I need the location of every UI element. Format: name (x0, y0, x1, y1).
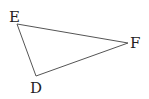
vertex-label-d: D (30, 79, 42, 97)
triangle-diagram: E F D (0, 0, 149, 99)
vertex-label-f: F (130, 34, 140, 52)
triangle-def (17, 24, 128, 76)
vertex-label-e: E (9, 8, 20, 26)
